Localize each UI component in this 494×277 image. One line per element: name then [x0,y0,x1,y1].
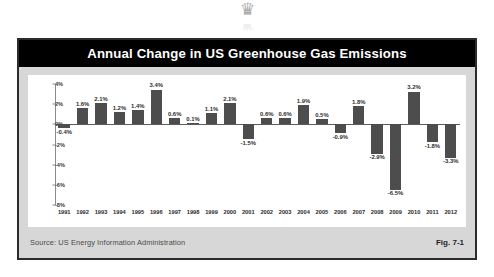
bar-value-label: 2.1% [94,96,107,102]
bar-value-label: 1.9% [297,98,310,104]
y-axis-tick-mark [53,164,56,165]
bar-value-label: 1.2% [113,105,126,111]
bar-1998[interactable] [187,123,198,124]
y-axis-tick-mark [53,104,56,105]
bar-1992[interactable] [77,108,88,124]
bar-1997[interactable] [169,118,180,124]
bar-value-label: 2.1% [223,96,236,102]
bar-value-label: 1.8% [352,99,365,105]
bar-value-label: 0.6% [278,111,291,117]
x-axis-tick-label-2008: 2008 [371,209,384,215]
bar-value-label: -6.5% [388,190,403,196]
x-axis-tick-label-2006: 2006 [334,209,347,215]
x-axis-tick-label-1998: 1998 [187,209,200,215]
bar-value-label: -1.8% [425,143,440,149]
x-axis-tick-label-1997: 1997 [168,209,181,215]
bar-1993[interactable] [95,103,106,124]
bar-2000[interactable] [224,103,235,124]
x-axis-tick-label-2011: 2011 [426,209,438,215]
bar-2012[interactable] [445,124,456,157]
x-axis-tick-label-1995: 1995 [132,209,145,215]
bar-value-label: 0.6% [168,111,181,117]
bar-value-label: 1.6% [76,101,89,107]
bar-value-label: 3.4% [150,82,163,88]
bar-value-label: 1.4% [131,103,144,109]
x-axis-tick-label-2007: 2007 [352,209,365,215]
bar-value-label: 0.5% [315,112,328,118]
logo-glyph: ♛ [240,1,254,18]
bar-chart-plot: 4%2%0%-2%-4%-6%-8%-0.4%19911.6%19922.1%1… [28,75,466,227]
bar-value-label: 1.1% [205,106,218,112]
x-axis-tick-label-2005: 2005 [316,209,329,215]
x-axis-tick-label-1996: 1996 [150,209,163,215]
x-axis-tick-label-2003: 2003 [279,209,292,215]
bar-2001[interactable] [243,124,254,139]
plot-card: 4%2%0%-2%-4%-6%-8%-0.4%19911.6%19922.1%1… [28,75,466,227]
x-axis-tick-label-2004: 2004 [297,209,310,215]
y-axis-tick-mark [53,124,56,125]
x-axis-tick-label-1991: 1991 [58,209,71,215]
page-title: Annual Change in US Greenhouse Gas Emiss… [87,46,407,61]
y-axis-tick-mark [53,184,56,185]
y-axis-tick-mark [53,205,56,206]
x-axis-tick-label-2000: 2000 [224,209,237,215]
chart-body-panel: 4%2%0%-2%-4%-6%-8%-0.4%19911.6%19922.1%1… [19,67,475,231]
bar-2007[interactable] [353,106,364,124]
bar-value-label: -1.5% [241,140,256,146]
bar-2011[interactable] [427,124,438,142]
bar-2008[interactable] [371,124,382,153]
y-axis-tick-label: 0% [55,121,58,127]
bar-value-label: -0.4% [57,129,72,135]
bar-2004[interactable] [298,105,309,124]
x-axis-tick-label-2010: 2010 [408,209,421,215]
bar-value-label: -3.3% [443,158,458,164]
figure-container: Annual Change in US Greenhouse Gas Emiss… [17,38,477,260]
bar-1991[interactable] [58,124,69,128]
bar-value-label: 0.1% [186,116,199,122]
bar-1994[interactable] [114,112,125,124]
x-axis-tick-label-1994: 1994 [113,209,126,215]
y-axis-tick-mark [53,144,56,145]
y-axis-tick-label: 2% [55,101,58,107]
y-axis-tick-label: -4% [55,162,58,168]
bar-value-label: 3.2% [407,84,420,90]
y-axis-tick-label: -2% [55,142,58,148]
y-axis-tick-mark [53,84,56,85]
y-axis-tick-label: -8% [55,202,58,208]
bar-value-label: -0.9% [333,134,348,140]
y-axis-tick-label: 4% [55,81,58,87]
bar-value-label: -2.9% [369,154,384,160]
bar-2006[interactable] [335,124,346,133]
x-axis-tick-label-2001: 2001 [242,209,255,215]
bar-2009[interactable] [390,124,401,190]
x-axis-tick-label-1993: 1993 [95,209,108,215]
bar-1995[interactable] [132,110,143,124]
bar-2010[interactable] [408,92,419,124]
logo-watermark: ♛ ♛ [0,0,494,32]
x-axis-tick-label-2009: 2009 [389,209,402,215]
x-axis-tick-label-2002: 2002 [260,209,273,215]
bar-2002[interactable] [261,118,272,124]
figure-footer: Source: US Energy Information Administra… [19,227,475,258]
bar-value-label: 0.6% [260,111,273,117]
bar-1996[interactable] [151,90,162,124]
bar-2003[interactable] [279,118,290,124]
x-axis-tick-label-1999: 1999 [205,209,218,215]
bar-2005[interactable] [316,119,327,124]
x-axis-tick-label-1992: 1992 [76,209,89,215]
source-note: Source: US Energy Information Administra… [30,238,185,247]
bar-1999[interactable] [206,113,217,124]
x-axis-tick-label-2012: 2012 [444,209,457,215]
chart-title-bar: Annual Change in US Greenhouse Gas Emiss… [19,40,475,67]
logo-glyph-reflection: ♛ [240,22,255,34]
figure-number: Fig. 7-1 [436,238,464,247]
y-axis-tick-label: -6% [55,182,58,188]
